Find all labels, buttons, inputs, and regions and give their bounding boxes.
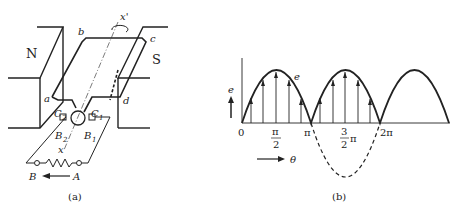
tick-2pi: 2π: [380, 127, 393, 138]
svg-text:2: 2: [273, 139, 279, 150]
tick-0: 0: [238, 127, 244, 138]
figure-b-waveform: [228, 58, 450, 177]
commutator-icon: [71, 111, 85, 125]
label-c2: C: [54, 108, 62, 119]
svg-text:2: 2: [62, 136, 68, 144]
theta-label: θ: [290, 154, 296, 165]
y-axis-label: e: [228, 84, 234, 95]
curve-label: e: [294, 71, 300, 82]
label-d: d: [123, 95, 129, 106]
svg-text:3: 3: [341, 126, 347, 137]
label-b2: B: [54, 130, 62, 141]
svg-text:π: π: [350, 133, 357, 144]
label-axis-top: x': [120, 11, 128, 22]
svg-text:1: 1: [92, 136, 96, 144]
emf-arrows: [251, 72, 370, 123]
resistor-icon: [40, 159, 76, 167]
svg-text:2: 2: [341, 139, 347, 150]
label-c: c: [150, 33, 156, 44]
label-north: N: [26, 46, 37, 61]
label-terminal-a: A: [72, 171, 80, 182]
svg-text:1: 1: [99, 114, 103, 122]
svg-text:2: 2: [61, 114, 67, 122]
label-a: a: [44, 93, 50, 104]
label-axis-bottom: x: [58, 144, 64, 155]
svg-text:π: π: [272, 126, 279, 137]
caption-b: (b): [332, 191, 346, 202]
generator-figure: N S a b c d x' x C 2 C 1 B 2 B 1 B A (a): [0, 0, 457, 212]
label-terminal-b: B: [28, 171, 36, 182]
label-b1: B: [83, 130, 91, 141]
rotation-arrow: [112, 25, 128, 32]
tick-pi: π: [304, 127, 311, 138]
south-pole: [118, 27, 168, 128]
caption-a: (a): [68, 191, 82, 202]
label-south: S: [152, 52, 161, 67]
label-b: b: [78, 26, 84, 37]
label-c1: C: [91, 108, 99, 119]
